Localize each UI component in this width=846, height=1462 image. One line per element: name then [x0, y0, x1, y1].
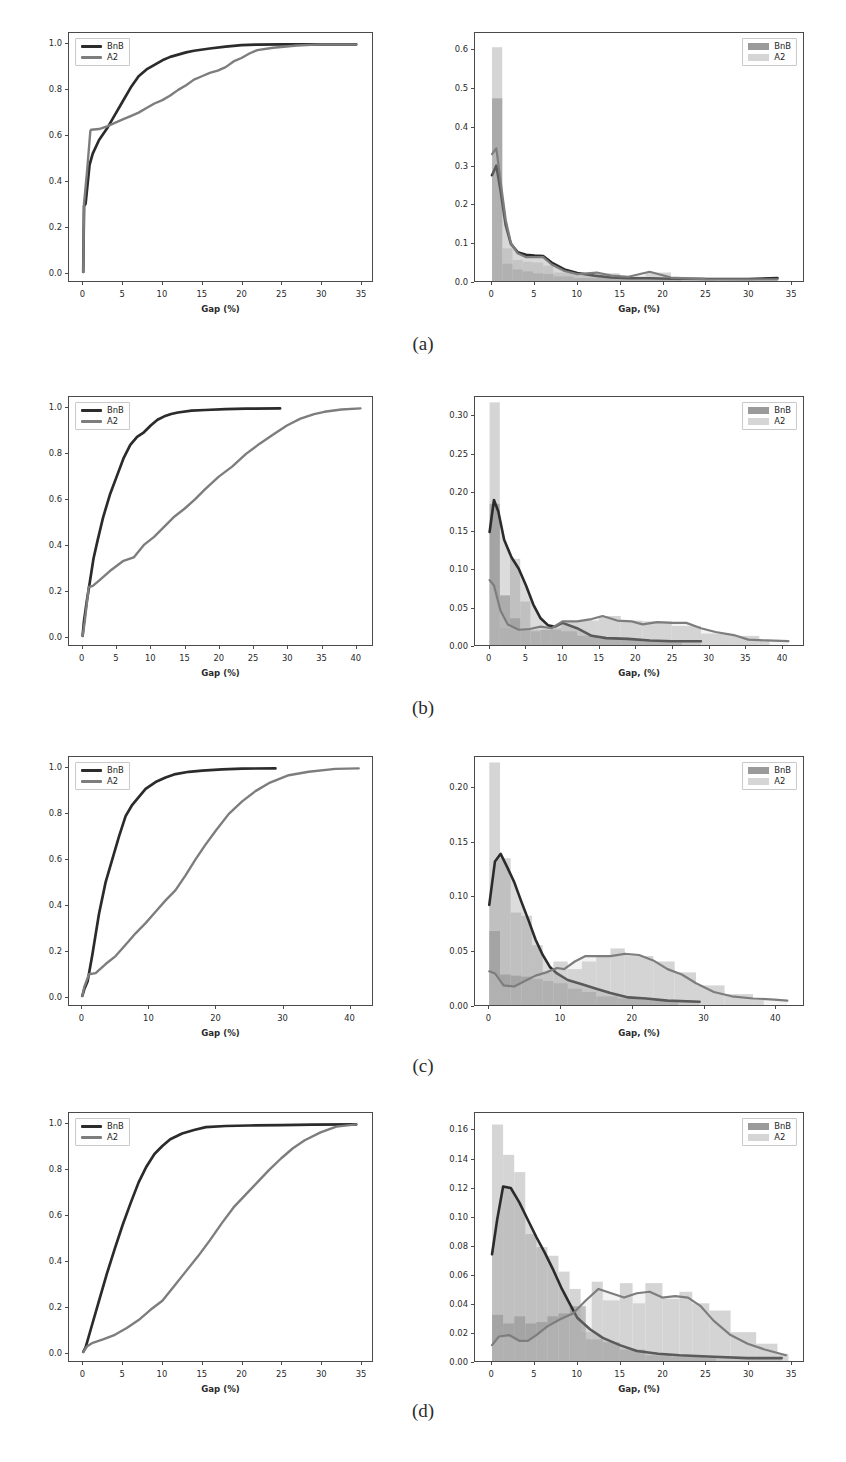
- y-tick-label: 0.00: [438, 1001, 468, 1011]
- y-tick-mark: [471, 1275, 474, 1276]
- x-tick-mark: [709, 646, 710, 649]
- y-tick-label: 0.06: [438, 1270, 468, 1280]
- legend-patch-a2-icon: [748, 418, 769, 425]
- x-tick-mark: [560, 1006, 561, 1009]
- y-tick-label: 0.20: [438, 782, 468, 792]
- y-tick-mark: [471, 166, 474, 167]
- subfigure-caption-d: (d): [0, 1400, 846, 1422]
- y-tick-label: 0.3: [438, 161, 468, 171]
- y-tick-mark: [471, 1246, 474, 1247]
- x-tick-mark: [562, 646, 563, 649]
- y-tick-mark: [471, 282, 474, 283]
- y-tick-mark: [471, 454, 474, 455]
- x-tick-label: 5: [523, 653, 528, 663]
- x-tick-label: 10: [555, 1013, 566, 1023]
- y-tick-mark: [471, 787, 474, 788]
- x-tick-mark: [791, 282, 792, 285]
- y-tick-mark: [471, 1129, 474, 1130]
- subfigure-caption-a: (a): [0, 333, 846, 355]
- x-axis-label: Gap, (%): [474, 1384, 804, 1394]
- legend-patch-a2-icon: [748, 778, 769, 785]
- y-tick-mark: [471, 1159, 474, 1160]
- legend-item-bnb: BnB: [748, 766, 791, 774]
- legend-item-a2: A2: [748, 417, 791, 425]
- y-tick-label: 0.05: [438, 946, 468, 956]
- y-tick-label: 0.6: [438, 44, 468, 54]
- legend-item-a2: A2: [748, 53, 791, 61]
- y-tick-label: 0.14: [438, 1154, 468, 1164]
- y-tick-label: 0.10: [438, 891, 468, 901]
- y-tick-mark: [471, 415, 474, 416]
- y-tick-mark: [471, 1304, 474, 1305]
- x-tick-mark: [704, 1006, 705, 1009]
- x-tick-mark: [745, 646, 746, 649]
- x-tick-label: 25: [700, 1369, 711, 1379]
- y-tick-mark: [471, 896, 474, 897]
- y-tick-label: 0.10: [438, 564, 468, 574]
- x-axis-label: Gap, (%): [474, 304, 804, 314]
- x-tick-mark: [525, 646, 526, 649]
- y-tick-mark: [471, 204, 474, 205]
- x-tick-mark: [672, 646, 673, 649]
- legend-label-bnb: BnB: [774, 42, 791, 50]
- legend-a-hist: BnBA2: [742, 38, 797, 66]
- x-tick-mark: [620, 282, 621, 285]
- plot-area-b-hist: BnBA2: [474, 396, 804, 646]
- x-tick-label: 10: [572, 289, 583, 299]
- y-tick-mark: [471, 1333, 474, 1334]
- legend-label-bnb: BnB: [774, 406, 791, 414]
- x-tick-mark: [488, 1006, 489, 1009]
- y-tick-label: 0.5: [438, 83, 468, 93]
- chart-c-hist: BnBA20.000.050.100.150.20010203040Gap, (…: [0, 742, 846, 1057]
- legend-patch-bnb-icon: [748, 767, 769, 774]
- chart-a-hist: BnBA20.00.10.20.30.40.50.605101520253035…: [0, 18, 846, 333]
- plot-area-c-hist: BnBA2: [474, 756, 804, 1006]
- legend-item-a2: A2: [748, 777, 791, 785]
- x-tick-mark: [663, 1362, 664, 1365]
- chart-b-hist: BnBA20.000.050.100.150.200.250.300510152…: [0, 382, 846, 697]
- x-tick-mark: [748, 1362, 749, 1365]
- x-tick-label: 5: [531, 1369, 536, 1379]
- y-tick-mark: [471, 569, 474, 570]
- x-tick-mark: [534, 282, 535, 285]
- x-tick-mark: [534, 1362, 535, 1365]
- legend-d-hist: BnBA2: [742, 1118, 797, 1146]
- y-tick-label: 0.1: [438, 238, 468, 248]
- legend-label-a2: A2: [774, 53, 785, 61]
- x-tick-mark: [791, 1362, 792, 1365]
- y-tick-mark: [471, 1188, 474, 1189]
- x-tick-mark: [599, 646, 600, 649]
- x-tick-label: 40: [770, 1013, 781, 1023]
- y-tick-label: 0.15: [438, 526, 468, 536]
- legend-b-hist: BnBA2: [742, 402, 797, 430]
- y-tick-mark: [471, 842, 474, 843]
- y-tick-label: 0.16: [438, 1124, 468, 1134]
- y-tick-label: 0.10: [438, 1212, 468, 1222]
- legend-label-a2: A2: [774, 1133, 785, 1141]
- y-tick-mark: [471, 1217, 474, 1218]
- y-tick-mark: [471, 49, 474, 50]
- x-tick-mark: [705, 1362, 706, 1365]
- legend-item-bnb: BnB: [748, 1122, 791, 1130]
- page-running-head: [38, 2, 338, 13]
- x-tick-label: 10: [572, 1369, 583, 1379]
- x-tick-label: 25: [700, 289, 711, 299]
- x-tick-mark: [491, 282, 492, 285]
- x-tick-label: 0: [488, 289, 493, 299]
- x-tick-mark: [489, 646, 490, 649]
- x-tick-mark: [782, 646, 783, 649]
- x-axis-label: Gap, (%): [474, 668, 804, 678]
- y-tick-mark: [471, 951, 474, 952]
- x-tick-mark: [775, 1006, 776, 1009]
- y-tick-mark: [471, 1362, 474, 1363]
- y-tick-mark: [471, 608, 474, 609]
- x-tick-mark: [663, 282, 664, 285]
- x-tick-label: 35: [786, 289, 797, 299]
- y-tick-mark: [471, 646, 474, 647]
- y-tick-label: 0.2: [438, 199, 468, 209]
- y-tick-mark: [471, 127, 474, 128]
- y-tick-label: 0.20: [438, 487, 468, 497]
- x-tick-label: 0: [488, 1369, 493, 1379]
- y-tick-label: 0.30: [438, 410, 468, 420]
- legend-patch-bnb-icon: [748, 43, 769, 50]
